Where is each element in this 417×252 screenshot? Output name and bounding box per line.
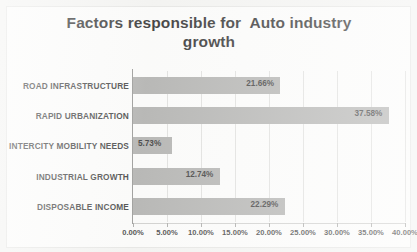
bar-value-label: 37.58%	[355, 109, 383, 118]
category-label: INTERCITY MOBILITY NEEDS	[3, 141, 129, 151]
bar-row: 5.73%	[133, 131, 405, 161]
x-axis-tick-label: 20.00%	[256, 228, 282, 237]
x-axis-tick	[133, 223, 134, 227]
x-axis-tick-label: 5.00%	[156, 228, 178, 237]
x-axis-tick	[303, 223, 304, 227]
x-axis-tick	[337, 223, 338, 227]
bar-value-label: 21.66%	[246, 79, 274, 88]
plot-area: 21.66%37.58%5.73%12.74%22.29%	[133, 71, 405, 222]
x-axis-tick	[371, 223, 372, 227]
x-axis-tick-label: 25.00%	[290, 228, 316, 237]
bar-row: 12.74%	[133, 162, 405, 192]
x-axis-tick-label: 0.00%	[122, 228, 144, 237]
x-axis-tick-label: 10.00%	[188, 228, 214, 237]
bar-value-label: 12.74%	[186, 170, 214, 179]
bar[interactable]	[133, 107, 389, 124]
x-axis-tick	[405, 223, 406, 227]
gridline	[405, 71, 406, 222]
x-axis-tick-label: 30.00%	[324, 228, 350, 237]
y-axis-line	[132, 69, 133, 224]
category-label: INDUSTRIAL GROWTH	[3, 172, 129, 182]
x-axis-tick-label: 40.00%	[392, 228, 417, 237]
x-axis-tick	[201, 223, 202, 227]
x-axis-tick	[269, 223, 270, 227]
category-label: RAPID URBANIZATION	[3, 111, 129, 121]
chart-title: Factors responsible for Auto industry gr…	[22, 13, 396, 51]
bar-row: 21.66%	[133, 71, 405, 101]
bar-value-label: 5.73%	[138, 139, 161, 148]
x-axis-tick-label: 15.00%	[222, 228, 248, 237]
category-axis: ROAD INFRASTRUCTURERAPID URBANIZATIONINT…	[0, 71, 129, 222]
category-label: DISPOSABLE INCOME	[3, 202, 129, 212]
category-label: ROAD INFRASTRUCTURE	[3, 81, 129, 91]
bar-row: 22.29%	[133, 192, 405, 222]
x-axis-tick-label: 35.00%	[358, 228, 384, 237]
x-axis-tick	[167, 223, 168, 227]
chart-container: Factors responsible for Auto industry gr…	[0, 0, 417, 252]
bar-value-label: 22.29%	[251, 200, 279, 209]
x-axis-tick	[235, 223, 236, 227]
bar-row: 37.58%	[133, 101, 405, 131]
